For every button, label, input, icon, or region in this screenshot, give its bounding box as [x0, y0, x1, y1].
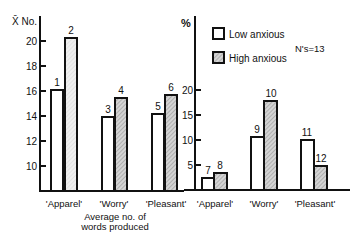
bar-low-worry-pct	[251, 137, 264, 190]
category-label: 'Worry'	[250, 198, 279, 209]
tick-label: 14	[26, 111, 38, 122]
tick-label: 5	[187, 160, 193, 171]
legend-swatch-high	[213, 52, 224, 63]
bar-label: 11	[302, 127, 313, 138]
tick-label: 12	[26, 136, 38, 147]
left-y-axis-label: X̄ No.	[12, 15, 37, 27]
bar-high-pleasant	[165, 95, 177, 191]
bar-high-apparel-pct	[214, 173, 227, 190]
bar-high-pleasant-pct	[314, 166, 327, 190]
bar-label: 6	[168, 82, 174, 93]
bar-label: 3	[105, 104, 111, 115]
bar-low-apparel	[51, 90, 63, 191]
category-label: 'Pleasant'	[146, 198, 187, 209]
tick-label: 20	[26, 36, 38, 47]
right-y-axis-label: %	[181, 17, 191, 29]
bar-high-worry	[115, 98, 127, 191]
bar-low-worry	[102, 117, 114, 191]
bar-high-worry-pct	[264, 101, 277, 190]
tick-label: 16	[26, 86, 38, 97]
right-chart: % 20 15 10 5 7 8 9 10 11 12 'Apparel' 'W…	[181, 16, 350, 209]
bar-label: 7	[205, 165, 211, 176]
tick-label: 10	[26, 161, 38, 172]
left-chart: X̄ No. 20 18 16 14 12 10 1 2 3 4	[12, 15, 186, 232]
bar-low-pleasant-pct	[301, 140, 314, 190]
bar-label: 8	[217, 160, 223, 171]
bar-label: 5	[155, 101, 161, 112]
bar-label: 4	[118, 85, 124, 96]
category-label: 'Apparel'	[46, 198, 83, 209]
bar-low-pleasant	[152, 114, 164, 191]
bar-label: 9	[254, 124, 260, 135]
legend: Low anxious High anxious N's=13	[213, 28, 325, 64]
bar-label: 1	[54, 77, 60, 88]
category-label: 'Pleasant'	[295, 198, 336, 209]
right-y-ticks: 20 15 10 5	[182, 85, 201, 171]
category-label: 'Worry'	[100, 198, 129, 209]
sample-size-note: N's=13	[295, 43, 325, 54]
bar-label: 10	[265, 88, 277, 99]
bar-label: 2	[68, 25, 74, 36]
tick-label: 10	[182, 135, 194, 146]
tick-label: 15	[182, 110, 194, 121]
legend-label-high: High anxious	[229, 53, 287, 64]
chart-figure: X̄ No. 20 18 16 14 12 10 1 2 3 4	[0, 0, 362, 242]
left-y-ticks: 20 18 16 14 12 10	[26, 36, 46, 172]
legend-label-low: Low anxious	[229, 29, 285, 40]
tick-label: 18	[26, 61, 38, 72]
tick-label: 20	[182, 85, 194, 96]
category-label: 'Apparel'	[197, 198, 234, 209]
x-axis-caption-line2: words produced	[80, 221, 149, 232]
bar-low-apparel-pct	[202, 178, 214, 190]
bar-label: 12	[315, 153, 327, 164]
legend-swatch-low	[213, 28, 224, 39]
